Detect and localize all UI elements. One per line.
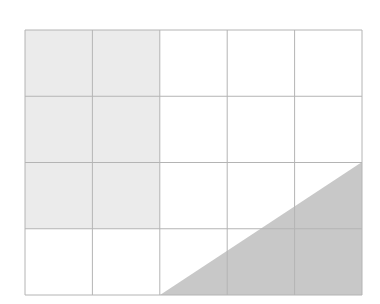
shaded-cell	[25, 96, 92, 162]
shaded-cell	[25, 30, 92, 96]
shaded-cell	[92, 30, 159, 96]
shaded-cell	[92, 96, 159, 162]
shaded-cell	[25, 163, 92, 229]
shaded-cell	[92, 163, 159, 229]
grid-diagram	[0, 0, 380, 304]
